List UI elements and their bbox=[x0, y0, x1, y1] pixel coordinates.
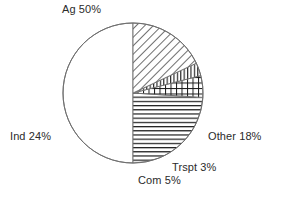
pie-label-other: Other 18% bbox=[208, 130, 261, 143]
pie-label-ind: Ind 24% bbox=[10, 130, 51, 143]
pie-label-com: Com 5% bbox=[138, 174, 181, 187]
pie-label-ag: Ag 50% bbox=[62, 3, 101, 16]
pie-label-trspt: Trspt 3% bbox=[172, 161, 216, 174]
pie-slices bbox=[63, 23, 203, 163]
pie-chart: Ag 50% Ind 24% Com 5% Trspt 3% Other 18% bbox=[0, 0, 282, 202]
pie-slice-ag bbox=[63, 23, 133, 163]
pie-chart-canvas bbox=[0, 0, 282, 202]
pie-slice-ind bbox=[133, 93, 203, 163]
